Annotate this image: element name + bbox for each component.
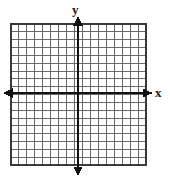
x-axis-label: x	[155, 86, 162, 99]
coordinate-grid-figure: y x	[0, 0, 170, 181]
graph-canvas	[0, 0, 170, 181]
y-axis-label: y	[72, 3, 79, 16]
